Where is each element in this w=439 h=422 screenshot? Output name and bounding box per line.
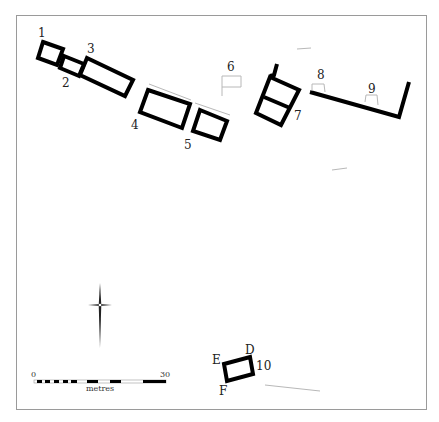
site-plan: 1 2 3 4 5 6 7 8	[0, 0, 439, 422]
north-arrow-icon	[88, 283, 112, 348]
structure-9: 9	[365, 82, 378, 105]
structure-10-label: 10	[256, 359, 271, 373]
faint-fragment-south	[265, 385, 320, 391]
structure-1: 1	[38, 26, 63, 65]
structure-3-label: 3	[87, 42, 95, 56]
scale-bar: 0 30 metres	[31, 370, 170, 393]
corner-label-e: E	[212, 353, 221, 367]
structure-6-label: 6	[227, 60, 235, 74]
structure-7-label: 7	[294, 109, 302, 123]
scale-start-label: 0	[31, 370, 36, 379]
structure-4-label: 4	[131, 118, 139, 132]
structure-9-label: 9	[368, 82, 376, 96]
structure-8: 8	[312, 68, 325, 92]
structure-2-label: 2	[62, 76, 70, 90]
structure-5: 5	[184, 103, 230, 152]
structure-4: 4	[131, 84, 191, 132]
scale-unit-label: metres	[86, 384, 114, 393]
scale-end-label: 30	[160, 370, 170, 379]
faint-fragment-north	[297, 48, 311, 49]
structure-6: 6	[222, 60, 241, 96]
structure-1-label: 1	[38, 26, 46, 40]
corner-label-f: F	[219, 384, 227, 398]
structure-10: 10 D E F	[212, 343, 271, 398]
faint-fragment-east	[332, 168, 347, 170]
structure-5-label: 5	[184, 138, 192, 152]
structure-3: 3	[80, 42, 133, 96]
structure-8-label: 8	[317, 68, 325, 82]
corner-label-d: D	[245, 343, 255, 357]
structure-7: 7	[256, 64, 302, 125]
